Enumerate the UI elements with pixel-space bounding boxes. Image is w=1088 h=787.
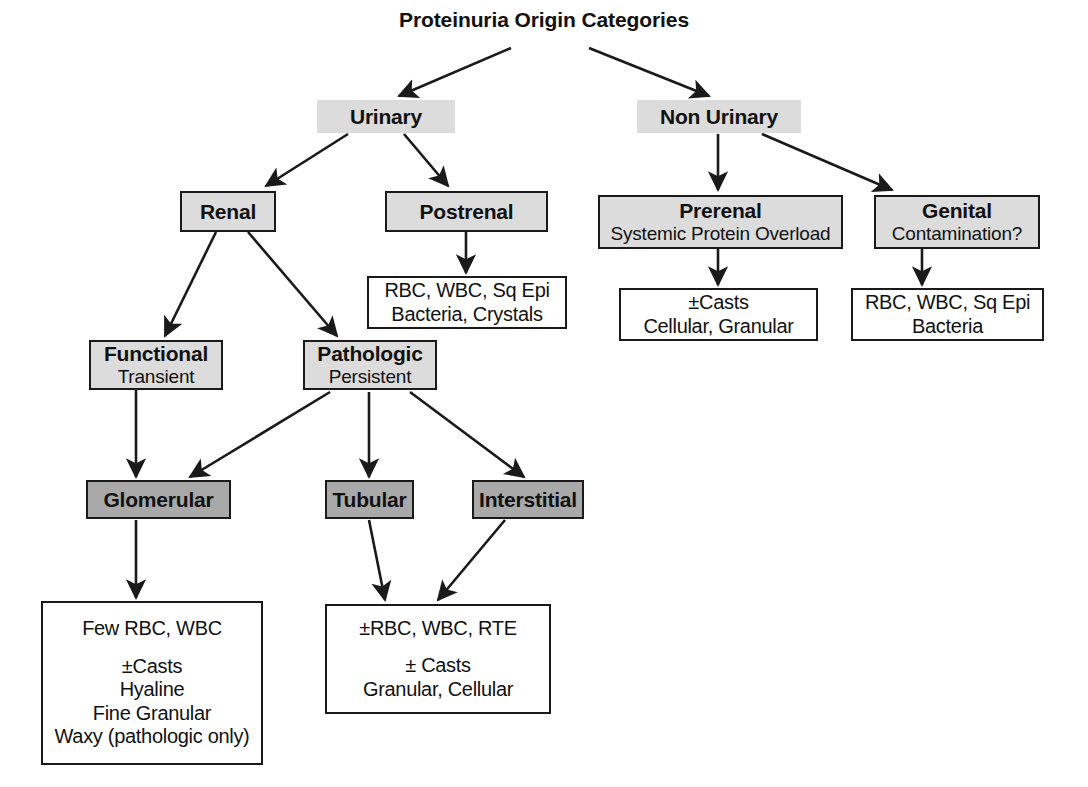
- page-title: Proteinuria Origin Categories: [0, 8, 1088, 32]
- leaf-line: ±RBC, WBC, RTE: [359, 617, 517, 641]
- node-renal[interactable]: Renal: [180, 191, 276, 232]
- leaf-line: Waxy (pathologic only): [55, 725, 250, 749]
- edge-tubular-to-findings: [369, 520, 385, 600]
- node-renal-label: Renal: [200, 200, 256, 224]
- leaf-tubular-findings: ±RBC, WBC, RTE ± Casts Granular, Cellula…: [325, 604, 551, 714]
- leaf-line: RBC, WBC, Sq Epi: [865, 291, 1030, 315]
- node-postrenal-label: Postrenal: [420, 200, 514, 224]
- leaf-line: Fine Granular: [93, 702, 211, 726]
- leaf-line: ±Casts: [688, 291, 748, 315]
- leaf-line: Few RBC, WBC: [82, 617, 222, 641]
- node-non-urinary[interactable]: Non Urinary: [637, 100, 801, 133]
- edge-pathologic-to-glomerular: [190, 392, 330, 477]
- edge-title-to-non-urinary: [589, 48, 709, 96]
- node-tubular[interactable]: Tubular: [325, 480, 414, 519]
- node-functional[interactable]: Functional Transient: [89, 340, 223, 390]
- leaf-line: Bacteria: [912, 315, 983, 339]
- edge-renal-to-functional: [165, 232, 216, 336]
- node-functional-sublabel: Transient: [118, 366, 195, 388]
- node-tubular-label: Tubular: [332, 488, 406, 512]
- edge-urinary-to-renal: [266, 134, 348, 186]
- leaf-line: ±Casts: [122, 655, 182, 679]
- node-prerenal[interactable]: Prerenal Systemic Protein Overload: [598, 195, 843, 249]
- node-glomerular[interactable]: Glomerular: [86, 480, 231, 519]
- leaf-line: Bacteria, Crystals: [391, 303, 542, 327]
- edge-interstitial-to-findings: [438, 520, 505, 600]
- node-pathologic-sublabel: Persistent: [329, 366, 411, 388]
- node-pathologic-label: Pathologic: [317, 342, 422, 366]
- node-urinary[interactable]: Urinary: [317, 100, 455, 133]
- leaf-genital-findings: RBC, WBC, Sq Epi Bacteria: [851, 288, 1044, 341]
- node-postrenal[interactable]: Postrenal: [385, 191, 548, 232]
- edge-urinary-to-postrenal: [404, 134, 448, 186]
- edge-pathologic-to-interstitial: [410, 392, 524, 477]
- leaf-line: RBC, WBC, Sq Epi: [384, 279, 549, 303]
- node-prerenal-sublabel: Systemic Protein Overload: [611, 223, 831, 245]
- flowchart-canvas: Proteinuria Origin Categories: [0, 0, 1088, 787]
- node-prerenal-label: Prerenal: [679, 199, 761, 223]
- leaf-glomerular-findings: Few RBC, WBC ±Casts Hyaline Fine Granula…: [41, 601, 263, 765]
- node-urinary-label: Urinary: [350, 105, 422, 129]
- leaf-line: ± Casts: [405, 654, 471, 678]
- node-pathologic[interactable]: Pathologic Persistent: [303, 340, 437, 390]
- leaf-prerenal-findings: ±Casts Cellular, Granular: [619, 288, 818, 341]
- node-functional-label: Functional: [104, 342, 208, 366]
- edge-non-urinary-to-genital: [762, 134, 892, 190]
- leaf-line: Hyaline: [120, 678, 185, 702]
- leaf-postrenal-findings: RBC, WBC, Sq Epi Bacteria, Crystals: [367, 276, 567, 329]
- leaf-line: Cellular, Granular: [643, 315, 793, 339]
- node-interstitial[interactable]: Interstitial: [472, 480, 584, 519]
- node-genital[interactable]: Genital Contamination?: [874, 195, 1040, 249]
- node-non-urinary-label: Non Urinary: [660, 105, 778, 129]
- leaf-line: Granular, Cellular: [363, 678, 513, 702]
- edge-renal-to-pathologic: [248, 232, 337, 336]
- node-genital-sublabel: Contamination?: [892, 223, 1022, 245]
- node-interstitial-label: Interstitial: [479, 488, 577, 512]
- node-glomerular-label: Glomerular: [103, 488, 213, 512]
- edge-title-to-urinary: [399, 48, 511, 96]
- node-genital-label: Genital: [922, 199, 992, 223]
